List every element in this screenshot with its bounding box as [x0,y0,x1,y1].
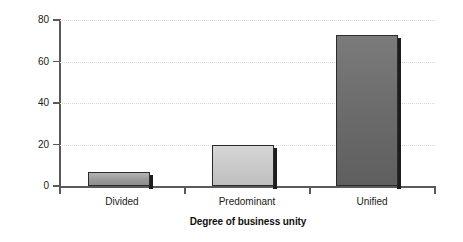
x-axis-title: Degree of business unity [60,216,436,227]
y-tick-mark-40 [53,102,60,104]
bar-predominant[interactable] [212,145,274,187]
x-tick-mark-0 [59,187,61,194]
y-tick-label-40: 40 [19,98,49,108]
x-tick-label-divided: Divided [57,196,187,207]
y-tick-label-80: 80 [19,15,49,25]
x-tick-mark-2 [309,187,311,194]
x-tick-mark-3 [434,187,436,194]
y-tick-mark-20 [53,144,60,146]
x-tick-label-unified: Unified [307,196,437,207]
bar-unified[interactable] [336,35,398,187]
x-axis-line [59,186,436,188]
gridline-80 [60,20,435,22]
bar-divided[interactable] [88,172,150,187]
y-tick-label-60: 60 [19,57,49,67]
y-tick-label-0: 0 [19,181,49,191]
y-tick-label-20: 20 [19,140,49,150]
x-tick-mark-1 [184,187,186,194]
y-tick-mark-80 [53,19,60,21]
y-tick-mark-60 [53,61,60,63]
bar-chart: Percent of electoral races 80 60 40 20 0… [0,0,463,242]
plot-area [60,20,435,186]
x-tick-label-predominant: Predominant [182,196,312,207]
